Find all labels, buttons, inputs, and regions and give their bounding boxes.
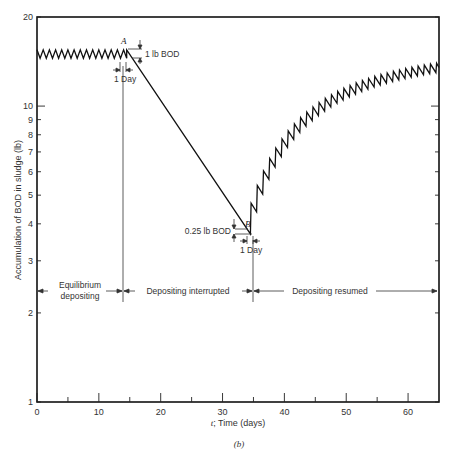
x-tick-label: 20: [156, 407, 166, 417]
y-tick-label: 10: [23, 101, 33, 111]
phase-label-equilibrium-2: depositing: [61, 291, 100, 301]
x-tick-label: 60: [403, 407, 413, 417]
y-axis-title: Accumulation of BOD in sludge (lb): [13, 140, 23, 280]
y-tick-label: 7: [28, 147, 33, 157]
a-width-label: 1 Day: [114, 74, 137, 84]
y-tick-label: 8: [28, 130, 33, 140]
y-tick-label: 5: [28, 190, 33, 200]
b-width-label: 1 Day: [240, 245, 263, 255]
phase-label-resumed: Depositing resumed: [292, 286, 368, 296]
x-tick-label: 50: [341, 407, 351, 417]
a-height-label: 1 lb BOD: [145, 49, 180, 59]
y-tick-label: 9: [28, 115, 33, 125]
figure-caption: (b): [234, 439, 245, 449]
point-b-label: B: [245, 219, 251, 229]
x-tick-label: 40: [279, 407, 289, 417]
plot-frame: [37, 17, 439, 402]
y-tick-label: 2: [28, 308, 33, 318]
point-a-label: A: [120, 36, 127, 46]
y-tick-label: 1: [28, 397, 33, 407]
x-tick-label: 30: [218, 407, 228, 417]
y-tick-label: 3: [28, 256, 33, 266]
bod-curve: [37, 50, 439, 234]
phase-label-equilibrium-1: Equilibrium: [59, 280, 101, 290]
y-tick-label: 20: [23, 12, 33, 22]
y-tick-label: 6: [28, 167, 33, 177]
y-tick-label: 4: [28, 219, 33, 229]
x-tick-label: 10: [94, 407, 104, 417]
x-axis-title: t; Time (days): [211, 418, 266, 428]
x-tick-label: 0: [34, 407, 39, 417]
x-axis-title-text: ; Time (days): [213, 418, 265, 428]
x-axis-ticks: 0102030405060: [34, 393, 413, 417]
bod-accumulation-chart: 0102030405060 1234567891020 Equilibrium …: [0, 0, 452, 458]
y-axis-ticks: 1234567891020: [23, 12, 439, 407]
b-height-label: 0.25 lb BOD: [185, 226, 231, 236]
phase-label-interrupted: Depositing interrupted: [146, 286, 229, 296]
